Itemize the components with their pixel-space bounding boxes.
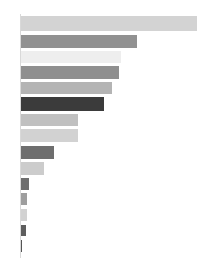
bar-1 [21,16,197,31]
bar-8 [21,129,78,142]
bar-14 [21,225,26,236]
bar-6 [21,97,104,111]
bar-10 [21,162,44,175]
bar-chart [0,0,208,272]
bar-3 [21,51,121,63]
bar-12 [21,193,27,205]
bar-5 [21,82,112,94]
bar-9 [21,146,54,159]
bar-2 [21,35,137,48]
plot-area [0,0,208,272]
bar-4 [21,66,119,79]
bar-7 [21,114,78,126]
bar-15 [21,240,22,252]
bar-13 [21,209,27,221]
bar-11 [21,178,29,190]
